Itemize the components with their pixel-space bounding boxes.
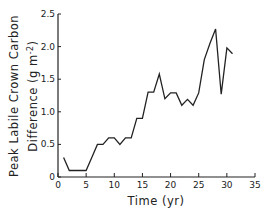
x-tick-label: 30 — [221, 180, 233, 190]
x-tick-label: 10 — [109, 180, 121, 190]
y-tick-label: 2.0 — [41, 42, 56, 52]
x-tick-label: 5 — [83, 180, 89, 190]
x-tick-label: 20 — [165, 180, 177, 190]
y-tick-label: 0.5 — [41, 139, 55, 149]
y-tick-label: 1.0 — [41, 107, 56, 117]
x-tick-label: 35 — [249, 180, 260, 190]
y-axis: 00.51.01.52.02.5 — [41, 9, 61, 182]
x-tick-label: 0 — [55, 180, 61, 190]
x-axis-title: Time (yr) — [127, 194, 185, 208]
y-tick-label: 2.5 — [41, 9, 55, 19]
x-tick-label: 15 — [137, 180, 148, 190]
y-axis-title-line1: Peak Labile Crown Carbon — [7, 15, 21, 177]
x-tick-label: 25 — [193, 180, 204, 190]
line-chart: 00.51.01.52.02.5 05101520253035 Time (yr… — [0, 0, 266, 211]
x-axis: 05101520253035 — [55, 173, 261, 190]
y-tick-label: 1.5 — [41, 74, 55, 84]
data-line — [64, 29, 233, 171]
y-axis-title-line2: Difference (g m-2) — [26, 40, 40, 151]
